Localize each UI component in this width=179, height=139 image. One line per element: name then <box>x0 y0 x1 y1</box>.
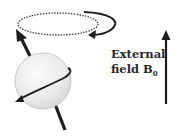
spin-axis-arrow <box>16 29 30 56</box>
external-field-arrow <box>162 30 171 104</box>
spin-axis-lower <box>55 104 65 130</box>
field-symbol: field B <box>111 62 153 76</box>
precession-path <box>18 13 98 35</box>
external-field-label-line2: field B0 <box>111 62 158 78</box>
field-subscript: 0 <box>153 69 158 78</box>
external-field-label-line1: External <box>111 47 166 61</box>
precession-direction-arrow <box>84 12 115 39</box>
